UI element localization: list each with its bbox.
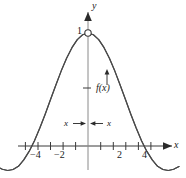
function-graph-figure: --> y x 1 f(x) −4 −2 2 4 x x (0, 0, 186, 178)
y-axis-label: y (92, 1, 96, 11)
function-value-label: f(x) (96, 83, 110, 93)
x-tick-label-plus4: 4 (142, 150, 147, 160)
x-tick-label-minus4: −4 (30, 150, 41, 160)
delta-left-label: x (64, 119, 68, 128)
right-arrow-icon (73, 121, 86, 126)
plot-canvas: --> (0, 0, 186, 178)
open-circle-marker (85, 30, 91, 36)
function-curve-main (0, 33, 179, 171)
x-tick-label-plus2: 2 (117, 150, 122, 160)
delta-right-label: x (107, 119, 111, 128)
x-axis-label: x (174, 140, 178, 150)
y-tick-label-1: 1 (77, 26, 82, 36)
left-arrow-icon (90, 121, 103, 126)
y-axis-arrowhead (84, 12, 92, 21)
x-axis-arrowhead (163, 142, 172, 150)
function-curve (0, 33, 179, 171)
x-tick-label-minus2: −2 (54, 150, 65, 160)
